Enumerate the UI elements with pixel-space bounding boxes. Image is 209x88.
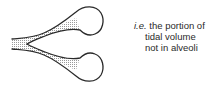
caption-line-2: tidal volume [134,31,205,42]
caption-line-3: not in alveoli [134,42,205,53]
dead-space-region [12,18,80,70]
caption-abbrev: i.e. [134,20,147,31]
caption-text-1: the portion of [149,20,204,31]
caption-line-1: i.e. the portion of [134,20,205,31]
dead-space-caption: i.e. the portion of tidal volume not in … [134,20,205,53]
